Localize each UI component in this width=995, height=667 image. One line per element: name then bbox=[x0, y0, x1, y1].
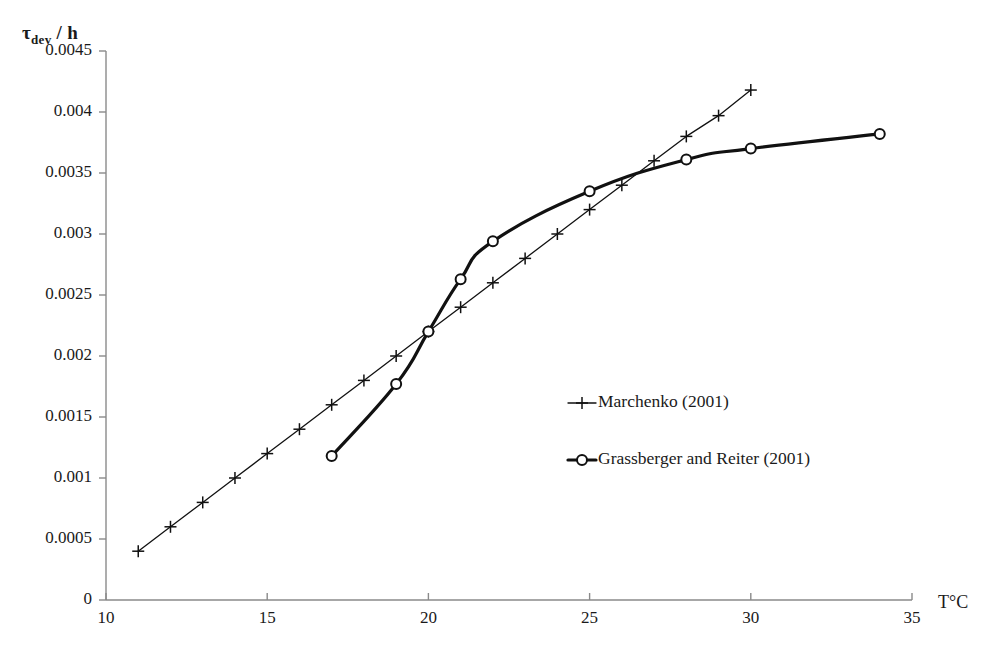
plot-canvas bbox=[0, 0, 995, 667]
y-tick-label: 0.0025 bbox=[8, 284, 92, 304]
circle-marker-icon bbox=[875, 129, 885, 139]
series-line bbox=[138, 90, 751, 551]
circle-marker-icon bbox=[577, 455, 587, 465]
x-tick-label: 25 bbox=[560, 608, 620, 628]
circle-marker-icon bbox=[488, 236, 498, 246]
y-tick-label: 0.004 bbox=[8, 101, 92, 121]
x-tick-label: 15 bbox=[237, 608, 297, 628]
circle-marker-icon bbox=[681, 155, 691, 165]
circle-marker-icon bbox=[746, 144, 756, 154]
y-tick-label: 0 bbox=[8, 589, 92, 609]
circle-marker-icon bbox=[585, 186, 595, 196]
series-group bbox=[132, 84, 885, 557]
legend-markers bbox=[568, 397, 596, 465]
legend-item-label: Grassberger and Reiter (2001) bbox=[598, 448, 810, 469]
x-tick-label: 30 bbox=[721, 608, 781, 628]
chart-figure: τdev / h T°C 00.00050.0010.00150.0020.00… bbox=[0, 0, 995, 667]
circle-marker-icon bbox=[391, 379, 401, 389]
legend-item-label: Marchenko (2001) bbox=[598, 391, 729, 412]
circle-marker-icon bbox=[423, 327, 433, 337]
y-tick-label: 0.0045 bbox=[8, 40, 92, 60]
data-series bbox=[132, 84, 757, 557]
y-tick-label: 0.003 bbox=[8, 223, 92, 243]
y-tick-label: 0.0015 bbox=[8, 406, 92, 426]
x-tick-label: 35 bbox=[882, 608, 942, 628]
circle-marker-icon bbox=[456, 274, 466, 284]
axes-group bbox=[99, 51, 912, 600]
y-tick-label: 0.0005 bbox=[8, 528, 92, 548]
x-axis-title: T°C bbox=[938, 592, 968, 613]
circle-marker-icon bbox=[327, 451, 337, 461]
y-tick-label: 0.0035 bbox=[8, 162, 92, 182]
y-tick-label: 0.001 bbox=[8, 467, 92, 487]
x-tick-label: 10 bbox=[76, 608, 136, 628]
y-tick-label: 0.002 bbox=[8, 345, 92, 365]
x-tick-label: 20 bbox=[398, 608, 458, 628]
